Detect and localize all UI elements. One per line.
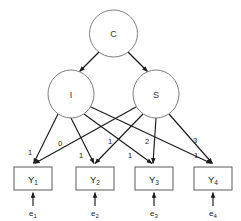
coef-s-to-y4: 3	[193, 136, 197, 145]
residual-labels: e1 e2 e3 e4	[29, 209, 217, 219]
coef-i-to-y3: 1	[128, 151, 132, 160]
residual-label-e4: e4	[209, 209, 217, 219]
residual-label-e3: e3	[150, 209, 158, 219]
path-c-to-s	[128, 52, 148, 72]
latent-node-s-label: S	[153, 90, 159, 100]
path-s-to-y3	[153, 118, 156, 164]
coef-s-to-y3: 2	[145, 137, 149, 146]
residual-paths	[33, 193, 213, 207]
coef-i-to-y2: 1	[79, 151, 83, 160]
residual-label-e1: e1	[29, 209, 37, 219]
path-s-to-y4	[169, 114, 213, 164]
path-i-to-y1	[34, 114, 59, 164]
path-c-to-i	[80, 52, 100, 72]
path-i-to-y3	[84, 114, 152, 164]
coef-i-to-y4: 1	[194, 151, 198, 160]
loading-coefficient-labels: 1 1 1 1 0 1 2 3	[28, 136, 198, 160]
latent-node-c-label: C	[110, 29, 117, 39]
latent-node-i-label: I	[70, 90, 73, 100]
coef-s-to-y1: 0	[58, 139, 62, 148]
latent-factor-nodes: C I S	[48, 10, 179, 118]
sem-path-diagram: C I S 1 1 1 1 0 1 2 3 Y1 Y2 Y3 Y4	[0, 0, 241, 221]
coef-s-to-y2: 1	[108, 137, 112, 146]
coef-i-to-y1: 1	[28, 148, 32, 157]
path-s-to-y2	[95, 114, 143, 164]
residual-label-e2: e2	[91, 209, 99, 219]
indicator-nodes: Y1 Y2 Y3 Y4	[14, 167, 232, 190]
diagram-canvas: C I S 1 1 1 1 0 1 2 3 Y1 Y2 Y3 Y4	[0, 0, 241, 221]
